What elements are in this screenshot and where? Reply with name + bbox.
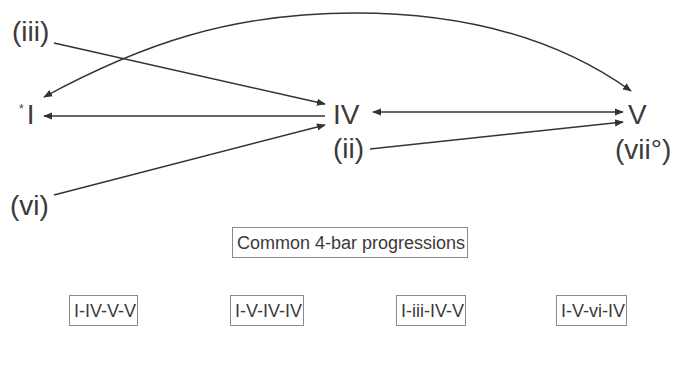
node-ii: (ii)	[333, 135, 364, 163]
progression-box: I-iii-IV-V	[396, 295, 466, 326]
node-iii: (iii)	[12, 18, 49, 46]
progression-box: I-V-IV-IV	[230, 295, 304, 326]
asterisk-marker: *	[19, 102, 24, 116]
node-vii: (vii°)	[615, 136, 671, 164]
edge-arc-I-V	[44, 13, 631, 97]
edge-ii-to-V	[370, 122, 623, 149]
node-I-label: I	[27, 99, 35, 130]
progression-box: I-IV-V-V	[69, 295, 138, 326]
progressions-title: Common 4-bar progressions	[232, 227, 468, 258]
progression-box: I-V-vi-IV	[556, 295, 627, 326]
node-V: V	[628, 101, 647, 129]
edge-iii-to-IV	[54, 43, 325, 104]
node-vi: (vi)	[10, 192, 49, 220]
node-I: *I	[19, 101, 34, 129]
edge-vi-to-IV	[54, 125, 325, 195]
node-IV: IV	[333, 101, 359, 129]
